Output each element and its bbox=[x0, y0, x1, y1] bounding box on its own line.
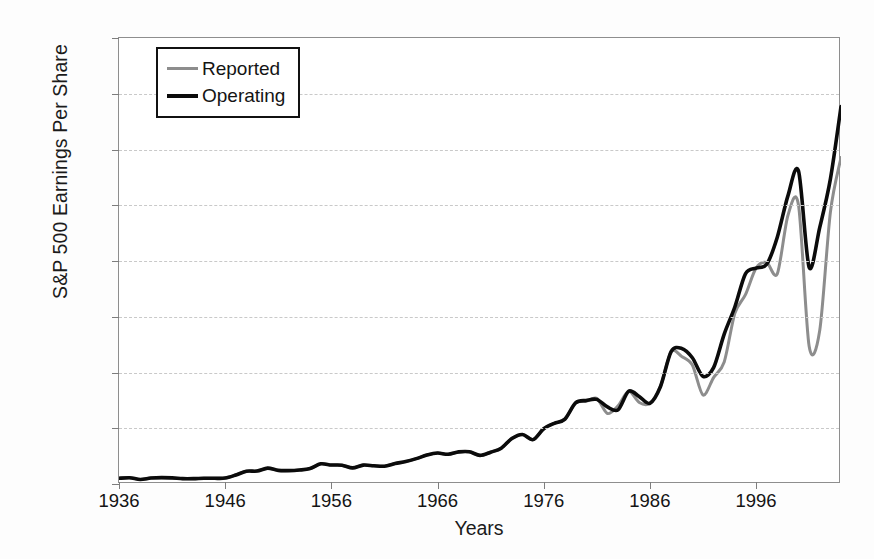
y-tick-mark bbox=[112, 38, 119, 39]
x-tick-mark bbox=[650, 482, 651, 489]
y-tick-mark bbox=[112, 373, 119, 374]
x-tick-mark bbox=[756, 482, 757, 489]
x-tick-label: 1956 bbox=[271, 490, 391, 512]
y-tick-mark bbox=[112, 484, 119, 485]
x-axis-title: Years bbox=[118, 517, 840, 540]
x-tick-mark bbox=[438, 482, 439, 489]
series-line-operating bbox=[119, 107, 841, 480]
gridline bbox=[119, 205, 839, 206]
legend-line-reported-icon bbox=[167, 67, 198, 70]
x-tick-label: 1946 bbox=[165, 490, 285, 512]
chart-figure: S&P 500 Earnings Per Share $0.00$10.00$2… bbox=[0, 0, 874, 559]
gridline bbox=[119, 428, 839, 429]
legend-item-reported: Reported bbox=[167, 55, 285, 82]
legend-line-operating-icon bbox=[167, 94, 198, 98]
legend-item-operating: Operating bbox=[167, 82, 285, 109]
gridline bbox=[119, 150, 839, 151]
y-tick-mark bbox=[112, 205, 119, 206]
y-tick-mark bbox=[112, 94, 119, 95]
x-tick-mark bbox=[119, 482, 120, 489]
gridline bbox=[119, 261, 839, 262]
y-tick-mark bbox=[112, 428, 119, 429]
x-tick-mark bbox=[331, 482, 332, 489]
y-tick-mark bbox=[112, 261, 119, 262]
gridline bbox=[119, 373, 839, 374]
y-tick-mark bbox=[112, 150, 119, 151]
gridline bbox=[119, 317, 839, 318]
plot-area: $0.00$10.00$20.00$30.00$40.00$50.00$60.0… bbox=[118, 37, 840, 483]
x-tick-label: 1976 bbox=[484, 490, 604, 512]
chart-legend: Reported Operating bbox=[156, 47, 300, 118]
legend-label-reported: Reported bbox=[202, 59, 280, 78]
x-tick-label: 1996 bbox=[696, 490, 816, 512]
y-axis-title: S&P 500 Earnings Per Share bbox=[49, 0, 72, 372]
x-tick-label: 1986 bbox=[590, 490, 710, 512]
x-tick-mark bbox=[544, 482, 545, 489]
y-tick-mark bbox=[112, 317, 119, 318]
legend-label-operating: Operating bbox=[202, 86, 285, 105]
x-tick-label: 1936 bbox=[59, 490, 179, 512]
x-tick-label: 1966 bbox=[378, 490, 498, 512]
x-tick-mark bbox=[225, 482, 226, 489]
